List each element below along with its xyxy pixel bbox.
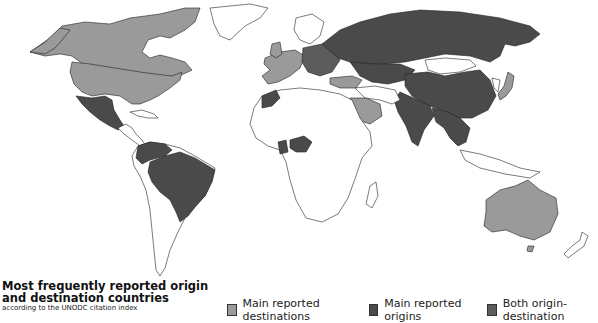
region-australia xyxy=(484,180,558,240)
map-subtitle: according to the UNODC citation index xyxy=(2,304,208,313)
map-title-line2: and destination countries xyxy=(2,292,208,304)
region-scandinavia xyxy=(294,14,324,44)
legend: Main reported destinations Main reported… xyxy=(227,297,598,323)
legend-swatch-origins xyxy=(369,304,379,316)
legend-label-destinations: Main reported destinations xyxy=(243,297,355,323)
legend-swatch-both xyxy=(487,304,497,316)
region-madagascar xyxy=(366,182,378,208)
legend-swatch-destinations xyxy=(227,304,237,316)
region-africa xyxy=(250,88,372,222)
legend-item-origins: Main reported origins xyxy=(369,297,473,323)
legend-item-both: Both origin-destination xyxy=(487,297,598,323)
region-japan xyxy=(498,72,514,100)
region-western-europe xyxy=(262,50,305,84)
region-caribbean xyxy=(130,110,158,118)
region-tasmania xyxy=(527,246,534,252)
region-indonesia xyxy=(460,150,540,178)
region-new-zealand xyxy=(564,232,588,258)
legend-label-origins: Main reported origins xyxy=(384,297,473,323)
map-title-block: Most frequently reported origin and dest… xyxy=(2,280,208,313)
world-map xyxy=(0,0,598,290)
region-greenland xyxy=(210,4,268,40)
region-central-america xyxy=(118,124,146,146)
region-mexico xyxy=(76,96,124,130)
region-russia xyxy=(322,10,540,66)
legend-item-destinations: Main reported destinations xyxy=(227,297,355,323)
region-west-africa-origin xyxy=(278,140,288,154)
legend-label-both: Both origin-destination xyxy=(503,297,598,323)
region-turkey xyxy=(330,76,362,88)
